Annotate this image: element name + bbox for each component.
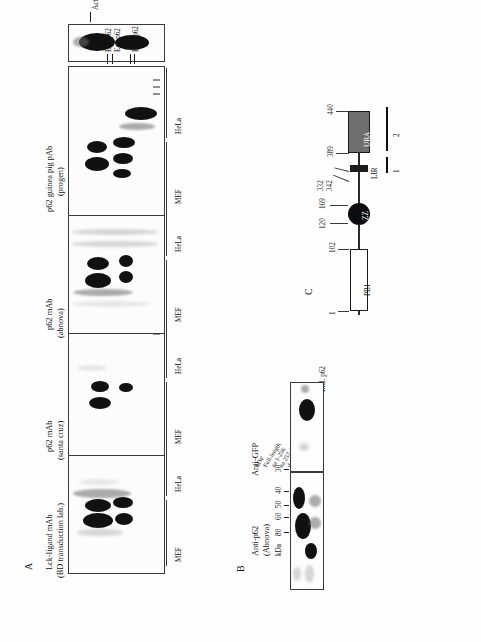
position-label-1: 1: [330, 311, 337, 315]
cellline-label-lck-hela: HeLa: [176, 476, 183, 492]
band-annotation-actin: Actin: [93, 0, 100, 10]
domain-uba: UBA: [348, 111, 370, 153]
ladder-value-80: 80: [276, 529, 283, 536]
cellline-label-lck-mef: MEF: [176, 547, 183, 562]
panel-c: C PB1 ZZ LIR UBA 1 102 120 169 332 342: [300, 95, 430, 325]
position-label-389: 389: [328, 146, 335, 157]
figure-root: A Lck-ligand mAb (BD transduction lab.) …: [0, 0, 481, 642]
blot-label-anti-p62-line2: (Abnova): [263, 524, 271, 556]
position-label-102: 102: [330, 242, 337, 253]
epitope-bar-2: [386, 107, 388, 151]
position-label-169: 169: [320, 198, 327, 209]
band-annotation-end-p62: End. p62: [133, 26, 140, 52]
ladder-value-60: 60: [276, 513, 283, 520]
position-label-120: 120: [320, 218, 327, 229]
panel-c-letter: C: [304, 288, 314, 295]
position-label-440: 440: [328, 104, 335, 115]
epitope-bar-label-2: 2: [394, 133, 401, 137]
antibody-label-ab-line2: (abnova): [57, 308, 65, 338]
domain-lir: [350, 165, 368, 172]
ladder-value-40: 40: [276, 487, 283, 494]
position-label-332: 332: [318, 180, 325, 191]
antibody-label-sc-line2: (santa cruz): [57, 421, 65, 460]
blot-image-pg-main: [68, 66, 165, 216]
band-annotation-ect-p62-1: Ect. p62: [106, 28, 113, 52]
cellline-label-sc-mef: MEF: [176, 429, 183, 444]
blot-label-anti-p62-line1: Anti-p62: [252, 526, 260, 556]
cellline-label-ab-mef: MEF: [176, 307, 183, 322]
domain-label-lir: LIR: [372, 167, 379, 179]
ladder-unit-label: kDa: [276, 544, 283, 556]
antibody-label-pg-line2: (progen): [57, 167, 65, 196]
domain-label-zz: ZZ: [363, 211, 370, 220]
cellline-label-pg-hela: HeLa: [176, 118, 183, 134]
cellline-label-ab-hela: HeLa: [176, 236, 183, 252]
epitope-bar-1: [386, 157, 388, 173]
domain-zz: ZZ: [348, 203, 370, 225]
position-label-342: 342: [327, 180, 334, 191]
blot-image-anti-gfp: [290, 472, 324, 590]
antibody-label-sc-line1: p62 mAb: [46, 421, 54, 452]
ladder-value-50: 50: [276, 501, 283, 508]
domain-pb1: PB1: [350, 249, 368, 311]
antibody-label-ab-line1: p62 mAb: [46, 299, 54, 330]
panel-b: B Anti-p62 (Abnova) Anti-GFP kDa 80 60 5…: [232, 360, 382, 642]
blot-image-anti-p62: [290, 382, 324, 472]
band-annotation-ect-p62-2: Ect. p62: [115, 28, 122, 52]
antibody-label-lck-line1: Lck-ligand mAb: [46, 514, 54, 570]
domain-label-uba: UBA: [365, 132, 372, 147]
panel-b-letter: B: [236, 565, 246, 572]
antibody-label-pg-line1: p62 guinea pig pAb: [46, 146, 54, 212]
cellline-label-sc-hela: HeLa: [176, 358, 183, 374]
cellline-label-pg-mef: MEF: [176, 189, 183, 204]
panel-a-letter: A: [24, 563, 34, 570]
domain-label-pb1: PB1: [365, 284, 372, 296]
antibody-label-lck-line2: (BD transduction lab.): [57, 503, 65, 578]
epitope-bar-label-1: 1: [394, 169, 401, 173]
